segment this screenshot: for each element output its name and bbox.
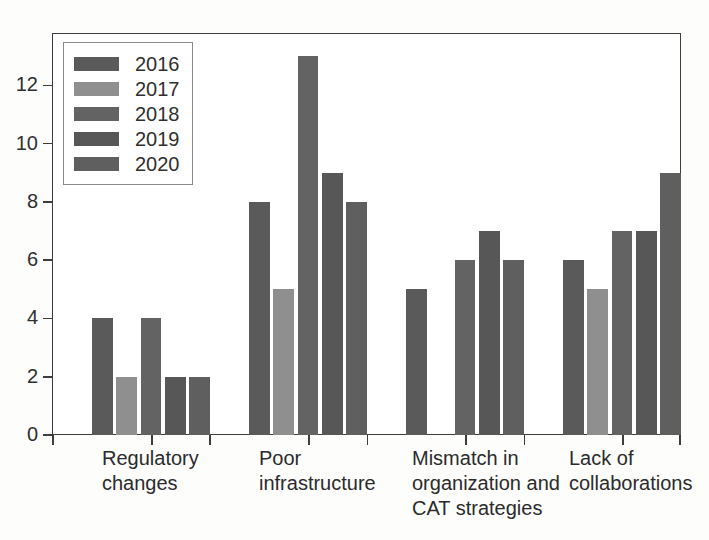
legend-item[interactable]: 2019	[74, 126, 180, 151]
bar[interactable]	[249, 202, 270, 435]
x-axis-tick-mark	[52, 435, 54, 445]
bar[interactable]	[406, 289, 427, 435]
y-axis-tick-label: 6	[0, 248, 38, 270]
bar-group	[249, 33, 367, 435]
legend-swatch-icon	[74, 107, 119, 121]
legend-item-label: 2016	[135, 53, 180, 75]
x-axis-tick-mark	[465, 435, 467, 445]
x-axis-tick-mark	[524, 435, 526, 445]
y-axis-tick-mark	[43, 434, 52, 436]
y-axis-tick-mark	[43, 85, 52, 87]
bar-group	[406, 33, 524, 435]
bar[interactable]	[273, 289, 294, 435]
bar[interactable]	[189, 377, 210, 435]
x-axis-tick-mark	[151, 435, 153, 445]
bar[interactable]	[660, 173, 681, 435]
y-axis: 024681012	[0, 33, 52, 435]
legend-item[interactable]: 2018	[74, 101, 180, 126]
y-axis-tick-label: 10	[0, 132, 38, 154]
y-axis-tick-mark	[43, 318, 52, 320]
y-axis-tick-label: 2	[0, 365, 38, 387]
x-axis-tick-mark	[308, 435, 310, 445]
bar[interactable]	[298, 56, 319, 435]
bar[interactable]	[455, 260, 476, 435]
y-axis-tick-label: 0	[0, 423, 38, 445]
y-axis-tick-mark	[43, 376, 52, 378]
bar-chart-figure: 024681012 Regulatory changesPoor infrast…	[0, 0, 709, 540]
legend-item[interactable]: 2020	[74, 151, 180, 176]
y-axis-tick-label: 4	[0, 306, 38, 328]
bar[interactable]	[92, 318, 113, 435]
y-axis-tick-label: 8	[0, 190, 38, 212]
legend-swatch-icon	[74, 57, 119, 71]
x-axis-tick-mark	[209, 435, 211, 445]
x-axis-tick-mark	[679, 435, 681, 445]
bar[interactable]	[322, 173, 343, 435]
legend-swatch-icon	[74, 157, 119, 171]
x-axis-tick-mark	[622, 435, 624, 445]
legend-item-label: 2017	[135, 78, 180, 100]
legend-item-label: 2020	[135, 153, 180, 175]
y-axis-tick-label: 12	[0, 73, 38, 95]
legend-swatch-icon	[74, 132, 119, 146]
y-axis-tick-mark	[43, 201, 52, 203]
legend-item-label: 2018	[135, 103, 180, 125]
bar[interactable]	[165, 377, 186, 435]
x-axis-labels: Regulatory changesPoor infrastructureMis…	[52, 446, 709, 540]
legend-swatch-icon	[74, 82, 119, 96]
bar[interactable]	[503, 260, 524, 435]
bar[interactable]	[479, 231, 500, 435]
y-axis-tick-mark	[43, 143, 52, 145]
legend-item-label: 2019	[135, 128, 180, 150]
bar[interactable]	[563, 260, 584, 435]
x-axis-tick-mark	[367, 435, 369, 445]
legend: 20162017201820192020	[63, 42, 193, 185]
bar[interactable]	[587, 289, 608, 435]
x-axis-tick-label: Mismatch in organization and CAT strateg…	[412, 446, 560, 521]
bar[interactable]	[612, 231, 633, 435]
legend-item[interactable]: 2017	[74, 76, 180, 101]
legend-item[interactable]: 2016	[74, 51, 180, 76]
bar[interactable]	[636, 231, 657, 435]
y-axis-tick-mark	[43, 259, 52, 261]
x-axis-tick-label: Poor infrastructure	[259, 446, 376, 496]
bar[interactable]	[346, 202, 367, 435]
x-axis-tick-label: Regulatory changes	[102, 446, 199, 496]
bar-group	[563, 33, 681, 435]
x-axis-tick-label: Lack of collaborations	[569, 446, 692, 496]
bar[interactable]	[116, 377, 137, 435]
bar[interactable]	[141, 318, 162, 435]
